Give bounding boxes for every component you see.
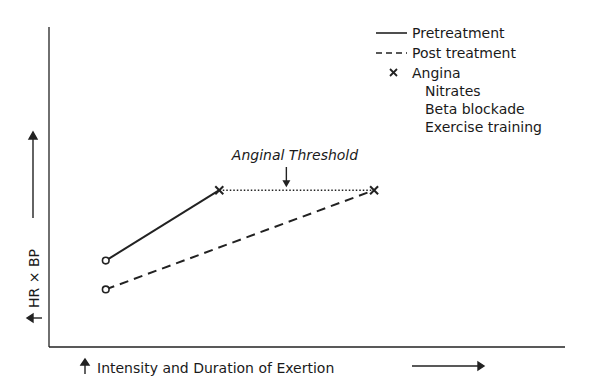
y-axis-label: HR × BP bbox=[26, 249, 42, 308]
y-left-arrow-icon bbox=[27, 314, 42, 322]
start-marker-post-treatment bbox=[102, 286, 109, 293]
legend: Pretreatment Post treatment Angina Nitra… bbox=[376, 25, 542, 135]
annotation-anginal-threshold: Anginal Threshold bbox=[231, 147, 358, 163]
legend-label-angina: Angina bbox=[412, 65, 461, 81]
legend-x-marker-icon bbox=[390, 69, 397, 76]
annotation-arrow bbox=[282, 167, 290, 187]
x-axis-label: Intensity and Duration of Exertion bbox=[97, 360, 334, 376]
start-marker-pretreatment bbox=[102, 257, 109, 264]
x-up-arrow-icon bbox=[81, 359, 89, 374]
legend-label-pretreatment: Pretreatment bbox=[412, 25, 505, 41]
series-line-post-treatment bbox=[106, 190, 374, 289]
series-line-pretreatment bbox=[106, 190, 220, 260]
legend-note-beta-blockade: Beta blockade bbox=[425, 101, 525, 117]
legend-note-nitrates: Nitrates bbox=[425, 83, 481, 99]
legend-label-post-treatment: Post treatment bbox=[412, 45, 516, 61]
chart: Anginal Threshold Pretreatment Post trea… bbox=[0, 0, 590, 390]
y-up-arrow-icon bbox=[29, 132, 37, 218]
legend-note-exercise-training: Exercise training bbox=[425, 119, 542, 135]
x-right-arrow-icon bbox=[412, 362, 484, 370]
